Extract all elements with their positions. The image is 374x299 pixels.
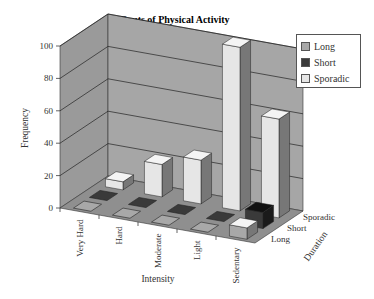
legend: Long Short Sporadic <box>296 34 361 88</box>
x-tick-label: Very Hard <box>75 219 85 257</box>
plot-area: 020406080100Very HardHardModerateLightSe… <box>40 14 336 284</box>
x-tick-label: Hard <box>114 226 124 244</box>
y-tick-label: 20 <box>44 171 54 181</box>
y-tick-label: 0 <box>49 203 54 213</box>
legend-item-long: Long <box>301 38 356 54</box>
bar-sporadic-sedentary <box>261 109 289 218</box>
side-wall <box>60 14 108 208</box>
legend-swatch-long <box>301 42 310 51</box>
depth-tick-label: Sporadic <box>303 212 335 222</box>
x-axis-label: Intensity <box>141 274 174 284</box>
bar-sporadic-moderate <box>183 150 211 204</box>
bar-sporadic-hard <box>144 154 172 197</box>
legend-label: Long <box>314 41 335 52</box>
x-tick-label: Sedentary <box>231 247 241 283</box>
legend-item-sporadic: Sporadic <box>301 70 356 86</box>
y-tick-label: 100 <box>40 41 54 51</box>
y-tick-label: 40 <box>44 138 54 148</box>
bar-sporadic-light <box>222 37 250 211</box>
x-tick-label: Light <box>192 240 202 260</box>
y-tick-label: 60 <box>44 106 54 116</box>
y-axis-label: Frequency <box>20 108 30 148</box>
legend-swatch-sporadic <box>301 74 310 83</box>
depth-tick-label: Short <box>287 223 307 233</box>
z-axis-label: Duration <box>302 229 330 263</box>
y-tick-label: 80 <box>44 73 54 83</box>
legend-label: Short <box>314 57 336 68</box>
legend-swatch-short <box>301 58 310 67</box>
x-tick-label: Moderate <box>153 233 163 267</box>
legend-label: Sporadic <box>314 73 350 84</box>
legend-item-short: Short <box>301 54 356 70</box>
depth-tick-label: Long <box>271 234 290 244</box>
